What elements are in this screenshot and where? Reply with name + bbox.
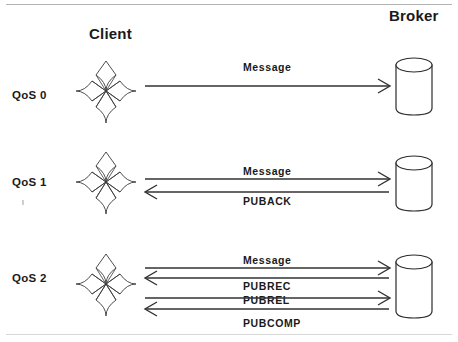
arrow-qos1-puback: [145, 185, 389, 199]
broker-icon-qos1: [396, 156, 432, 211]
arrow-qos1-message: [145, 172, 390, 186]
arrow-qos0-message: [145, 79, 390, 93]
broker-icon-qos2: [396, 255, 432, 318]
client-icon-qos0: [76, 61, 136, 123]
arrow-qos2-pubcomp: [145, 302, 389, 316]
client-icon-qos1: [76, 152, 136, 214]
arrow-qos2-pubrec: [145, 271, 389, 285]
client-icon-qos2: [76, 254, 136, 316]
mqtt-qos-diagram: Client Broker QoS 0 QoS 1 QoS 2 Message …: [0, 0, 458, 342]
broker-icon-qos0: [396, 58, 432, 115]
arrow-qos2-pubrel: [145, 291, 390, 305]
arrow-qos2-message: [145, 261, 390, 275]
